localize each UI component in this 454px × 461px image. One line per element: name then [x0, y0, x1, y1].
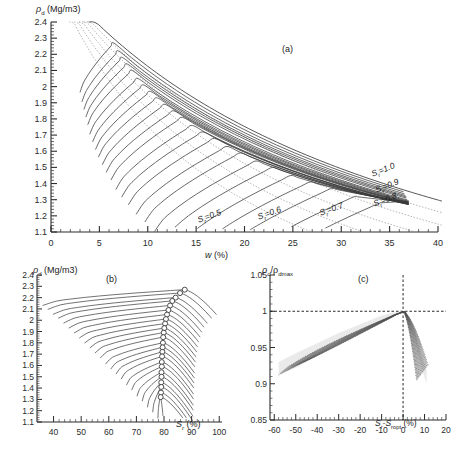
panel-a-y-axis-label: ρd (Mg/m3): [36, 4, 81, 16]
svg-text:40: 40: [433, 238, 443, 248]
svg-text:5: 5: [97, 238, 102, 248]
svg-text:25: 25: [288, 238, 298, 248]
panel-b-x-axis-label: Sr (%): [176, 419, 201, 431]
svg-text:-20: -20: [354, 425, 367, 435]
svg-text:20: 20: [441, 425, 451, 435]
svg-text:2.1: 2.1: [22, 304, 34, 314]
svg-text:1.6: 1.6: [34, 146, 47, 156]
svg-text:2: 2: [29, 315, 34, 325]
panel-b-density-vs-saturation: 1.11.21.31.41.51.61.71.81.922.12.22.32.4…: [0, 262, 228, 461]
svg-text:1.2: 1.2: [22, 406, 34, 416]
optimum-marker: [160, 354, 165, 359]
panel-a-x-axis-label: w (%): [205, 250, 228, 260]
svg-text:80: 80: [159, 427, 169, 437]
svg-text:50: 50: [76, 427, 86, 437]
panel-c-x-axis-label: Sr-Sropt (%): [375, 418, 417, 430]
svg-text:-60: -60: [268, 425, 281, 435]
svg-text:-30: -30: [333, 425, 346, 435]
optimum-marker: [178, 291, 183, 296]
panel-b-plot: 1.11.21.31.41.51.61.71.81.922.12.22.32.4…: [0, 262, 228, 461]
svg-text:10: 10: [143, 238, 153, 248]
svg-text:35: 35: [385, 238, 395, 248]
svg-text:0.95: 0.95: [250, 343, 267, 353]
svg-text:15: 15: [191, 238, 201, 248]
panel-a-plot: 1.11.21.31.41.51.61.71.81.922.12.22.32.4…: [0, 0, 454, 265]
svg-text:2.3: 2.3: [34, 33, 47, 43]
svg-text:1.6: 1.6: [22, 360, 34, 370]
panel-c-tag: (c): [358, 274, 369, 284]
svg-text:2.1: 2.1: [34, 65, 47, 75]
optimum-marker: [159, 364, 164, 369]
svg-text:1.4: 1.4: [34, 179, 47, 189]
optimum-marker: [159, 384, 164, 389]
svg-text:-40: -40: [311, 425, 324, 435]
svg-text:1.9: 1.9: [22, 327, 34, 337]
svg-text:2.4: 2.4: [34, 17, 47, 27]
svg-text:1: 1: [262, 306, 267, 316]
svg-text:40: 40: [49, 427, 59, 437]
svg-text:1.7: 1.7: [34, 130, 47, 140]
svg-text:2.2: 2.2: [22, 293, 34, 303]
panel-c-plot: 0.850.90.9511.05-60-50-40-30-20-1001020: [224, 262, 454, 461]
svg-text:2.2: 2.2: [34, 49, 47, 59]
svg-text:1.1: 1.1: [22, 417, 34, 427]
panel-c-y-axis-label: ρd/ρdmax: [262, 265, 293, 277]
svg-text:1.7: 1.7: [22, 349, 34, 359]
optimum-marker: [161, 335, 166, 340]
panel-c-normalised-curves: 0.850.90.9511.05-60-50-40-30-20-1001020 …: [224, 262, 454, 461]
svg-text:-50: -50: [290, 425, 303, 435]
svg-text:1.8: 1.8: [34, 114, 47, 124]
svg-text:0.9: 0.9: [255, 379, 267, 389]
svg-text:1.9: 1.9: [34, 98, 47, 108]
svg-text:2: 2: [42, 82, 47, 92]
optimum-marker: [159, 374, 164, 379]
svg-text:60: 60: [104, 427, 114, 437]
svg-text:0.85: 0.85: [250, 415, 267, 425]
svg-text:10: 10: [420, 425, 430, 435]
panel-b-tag: (b): [106, 274, 117, 284]
panel-b-y-axis-label: ρd (Mg/m3): [33, 265, 78, 277]
svg-text:1.4: 1.4: [22, 383, 34, 393]
svg-text:70: 70: [132, 427, 142, 437]
svg-text:1.3: 1.3: [22, 394, 34, 404]
svg-text:0: 0: [48, 238, 53, 248]
svg-text:1.2: 1.2: [34, 211, 47, 221]
svg-text:1.8: 1.8: [22, 338, 34, 348]
optimum-marker: [158, 395, 163, 400]
panel-a-compaction-curves: 1.11.21.31.41.51.61.71.81.922.12.22.32.4…: [0, 0, 454, 265]
svg-text:1.3: 1.3: [34, 195, 47, 205]
optimum-marker: [182, 287, 187, 292]
svg-text:20: 20: [239, 238, 249, 248]
svg-text:1.5: 1.5: [22, 372, 34, 382]
svg-text:30: 30: [336, 238, 346, 248]
scatter-envelope: [279, 311, 427, 383]
svg-text:1.1: 1.1: [34, 227, 47, 237]
svg-text:1.5: 1.5: [34, 162, 47, 172]
panel-a-tag: (a): [282, 44, 293, 54]
svg-text:2.3: 2.3: [22, 281, 34, 291]
